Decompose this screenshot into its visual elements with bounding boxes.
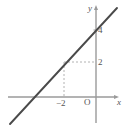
origin-label: O xyxy=(84,98,91,107)
y-tick-label-2: 2 xyxy=(98,58,103,67)
coordinate-plane-figure: y x O 4 2 −2 xyxy=(0,0,129,128)
y-tick-label-4: 4 xyxy=(98,26,103,35)
y-axis-label: y xyxy=(88,4,92,13)
plot-canvas xyxy=(0,0,129,128)
x-axis-label: x xyxy=(117,98,121,107)
x-tick-label-neg2: −2 xyxy=(56,99,66,108)
